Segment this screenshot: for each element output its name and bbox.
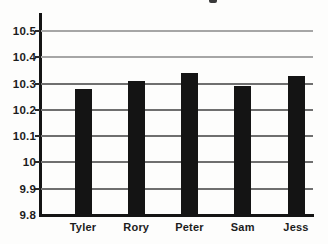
x-category-label-tyler: Tyler: [55, 220, 111, 234]
gridline-10.4: [41, 56, 313, 58]
y-axis-line: [39, 13, 42, 216]
x-category-label-jess: Jess: [268, 220, 324, 234]
x-category-label-rory: Rory: [108, 220, 164, 234]
y-tick-label-9.8: 9.8: [2, 209, 36, 221]
y-tick-label-10.5: 10.5: [2, 25, 36, 37]
y-tick-label-9.9: 9.9: [2, 183, 36, 195]
y-tick-label-10.4: 10.4: [2, 51, 36, 63]
gridline-10.5: [41, 30, 313, 32]
bar-peter: [181, 73, 198, 215]
x-category-label-sam: Sam: [215, 220, 271, 234]
y-tick-label-10.1: 10.1: [2, 130, 36, 142]
bar-sam: [234, 86, 251, 215]
y-tick-label-10: 10: [2, 156, 36, 168]
bar-jess: [288, 76, 305, 215]
gridline-10.3: [41, 83, 313, 85]
cropped-title-mark: [209, 0, 217, 3]
x-category-label-peter: Peter: [162, 220, 218, 234]
bar-tyler: [75, 89, 92, 215]
y-tick-label-10.2: 10.2: [2, 104, 36, 116]
y-tick-label-10.3: 10.3: [2, 78, 36, 90]
bar-rory: [128, 81, 145, 215]
bar-chart: 10.510.410.310.210.1109.99.8 TylerRoryPe…: [0, 0, 328, 244]
